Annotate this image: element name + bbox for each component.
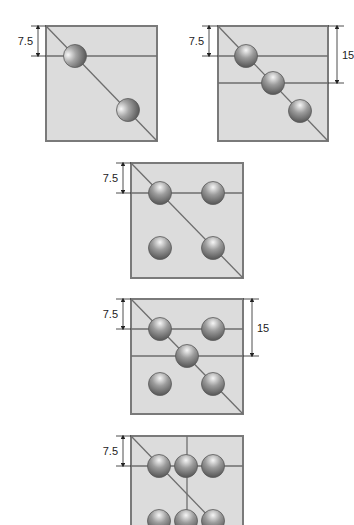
ball-icon <box>202 373 225 396</box>
dimension-left: 7.5 <box>103 436 131 466</box>
ball-icon <box>202 237 225 260</box>
dimension-right: 15 <box>243 299 269 356</box>
dimension-label: 7.5 <box>189 35 204 47</box>
figure-pattern-2: 7.515 <box>189 26 354 141</box>
ball-icon <box>149 373 172 396</box>
ball-icon <box>235 45 258 68</box>
figure-pattern-5: 7.5 <box>103 436 243 525</box>
ball-icon <box>289 100 312 123</box>
dimension-left: 7.5 <box>18 26 46 56</box>
ball-icon <box>149 237 172 260</box>
dimension-label: 7.5 <box>103 445 118 457</box>
dimension-label: 7.5 <box>18 35 33 47</box>
figure-pattern-3: 7.5 <box>103 163 243 278</box>
ball-icon <box>149 182 172 205</box>
dimension-label: 7.5 <box>103 172 118 184</box>
dimension-left: 7.5 <box>103 163 131 193</box>
ball-icon <box>64 45 87 68</box>
dimension-left: 7.5 <box>103 299 131 329</box>
ball-icon <box>202 318 225 341</box>
figure-pattern-4: 7.515 <box>103 299 270 414</box>
dimension-label: 7.5 <box>103 308 118 320</box>
dimension-right: 15 <box>328 26 354 83</box>
ball-icon <box>176 345 199 368</box>
ball-icon <box>175 455 198 478</box>
ball-arrangement-diagram: 7.57.5157.57.5157.5 <box>0 0 354 525</box>
dimension-label: 15 <box>342 49 354 61</box>
diagram-canvas: 7.57.5157.57.5157.5 <box>0 0 354 525</box>
figure-pattern-1: 7.5 <box>18 26 157 141</box>
ball-icon <box>117 99 140 122</box>
ball-icon <box>202 182 225 205</box>
dimension-label: 15 <box>257 322 269 334</box>
ball-icon <box>202 455 225 478</box>
ball-icon <box>262 72 285 95</box>
ball-icon <box>149 318 172 341</box>
ball-icon <box>148 455 171 478</box>
dimension-left: 7.5 <box>189 26 218 56</box>
